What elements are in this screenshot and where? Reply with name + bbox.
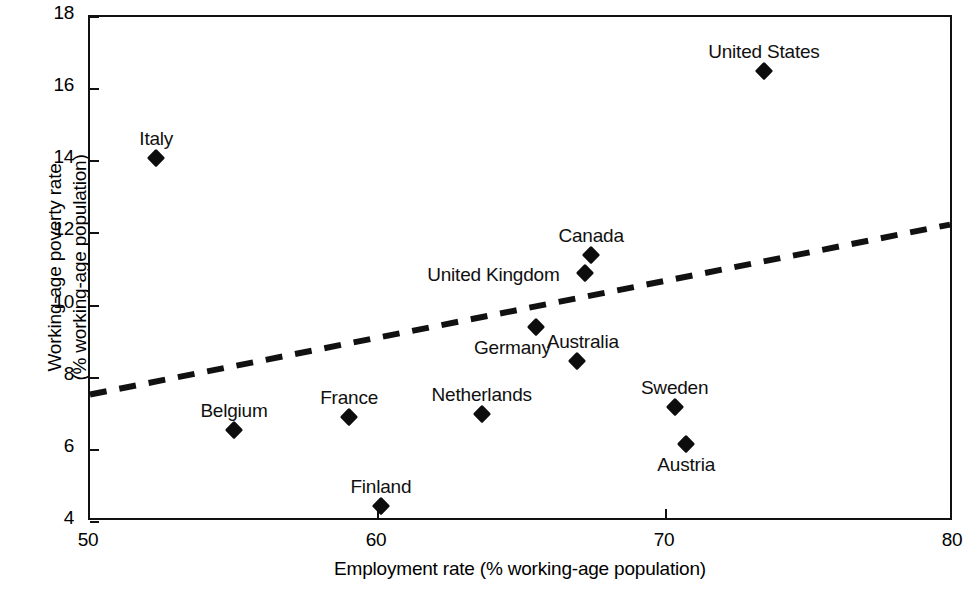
x-tick-mark: [665, 509, 667, 518]
y-tick-mark: [90, 88, 99, 90]
data-point-label: Austria: [657, 454, 715, 476]
y-tick-label: 16: [28, 74, 74, 96]
data-point-label: Italy: [139, 128, 173, 150]
data-point-marker: [665, 397, 683, 415]
data-point-marker: [340, 408, 358, 426]
x-tick-label: 70: [639, 529, 689, 551]
y-tick-label: 18: [28, 2, 74, 24]
y-tick-label: 14: [28, 146, 74, 168]
data-point-label: France: [320, 387, 378, 409]
y-tick-mark: [90, 305, 99, 307]
data-point-marker: [755, 62, 773, 80]
y-tick-mark: [90, 377, 99, 379]
y-tick-mark: [90, 232, 99, 234]
data-point-label: Belgium: [200, 400, 267, 422]
data-point-marker: [677, 435, 695, 453]
x-axis-title: Employment rate (% working-age populatio…: [88, 558, 952, 580]
data-point-label: Finland: [350, 476, 411, 498]
data-point-marker: [527, 318, 545, 336]
x-tick-label: 80: [927, 529, 976, 551]
data-point-marker: [568, 352, 586, 370]
y-tick-label: 10: [28, 291, 74, 313]
data-point-label: Germany: [474, 337, 551, 359]
data-point-marker: [147, 148, 165, 166]
y-tick-mark: [90, 16, 99, 18]
data-point-marker: [225, 421, 243, 439]
y-tick-label: 12: [28, 218, 74, 240]
data-point-label: United States: [708, 41, 819, 63]
data-point-label: Australia: [547, 331, 619, 353]
data-point-label: Sweden: [641, 377, 708, 399]
y-tick-mark: [90, 521, 99, 523]
data-point-marker: [472, 405, 490, 423]
scatter-plot-figure: Working-age poverty rate (% working-age …: [0, 0, 976, 593]
y-tick-mark: [90, 449, 99, 451]
y-tick-label: 4: [28, 507, 74, 529]
data-point-marker: [372, 497, 390, 515]
data-point-label: Netherlands: [432, 384, 532, 406]
y-tick-mark: [90, 160, 99, 162]
x-tick-label: 60: [351, 529, 401, 551]
data-point-label: Canada: [558, 225, 623, 247]
y-tick-label: 8: [28, 363, 74, 385]
data-point-label: United Kingdom: [427, 264, 559, 286]
y-axis-title-line1: Working-age poverty rate: [42, 154, 67, 380]
y-tick-label: 6: [28, 435, 74, 457]
plot-area: ItalyUnited StatesCanadaUnited KingdomGe…: [88, 15, 952, 520]
data-point-marker: [582, 246, 600, 264]
x-tick-label: 50: [63, 529, 113, 551]
data-point-marker: [576, 264, 594, 282]
